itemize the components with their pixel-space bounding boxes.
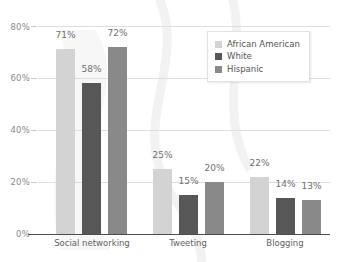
bar-value-label: 71% <box>48 30 83 40</box>
bar[interactable] <box>82 83 101 234</box>
x-tick-label: Blogging <box>249 238 321 248</box>
bar[interactable] <box>276 198 295 234</box>
legend-item-african-american[interactable]: African American <box>215 39 300 50</box>
bar-value-label: 22% <box>242 158 277 168</box>
bar[interactable] <box>179 195 198 234</box>
legend-label: White <box>227 51 252 62</box>
x-tick-label: Tweeting <box>152 238 224 248</box>
bar[interactable] <box>56 49 75 234</box>
y-tick-mark <box>31 130 37 131</box>
bar-value-label: 13% <box>294 181 329 191</box>
x-axis-baseline <box>28 234 330 235</box>
x-tick-label: Social networking <box>46 238 138 248</box>
y-tick-label: 0% <box>0 229 30 239</box>
y-tick-mark <box>31 182 37 183</box>
legend-swatch-icon <box>215 53 222 60</box>
legend-swatch-icon <box>215 41 222 48</box>
bar[interactable] <box>108 47 127 234</box>
legend-item-white[interactable]: White <box>215 51 300 62</box>
gridline-80 <box>38 26 330 27</box>
bar-value-label: 15% <box>171 176 206 186</box>
bar-value-label: 20% <box>197 163 232 173</box>
bar[interactable] <box>205 182 224 234</box>
y-tick-label: 60% <box>0 73 30 83</box>
legend-swatch-icon <box>215 66 222 73</box>
bar[interactable] <box>302 200 321 234</box>
legend-item-hispanic[interactable]: Hispanic <box>215 64 300 75</box>
bar[interactable] <box>153 169 172 234</box>
y-tick-mark <box>31 78 37 79</box>
bar-chart: 80% 60% 40% 20% 0% 71% 58% 72% Social ne… <box>0 0 341 262</box>
bar-value-label: 58% <box>74 64 109 74</box>
y-tick-label: 20% <box>0 177 30 187</box>
bar-value-label: 72% <box>100 28 135 38</box>
bar-value-label: 25% <box>145 150 180 160</box>
y-tick-label: 80% <box>0 22 30 32</box>
y-tick-label: 40% <box>0 125 30 135</box>
legend: African American White Hispanic <box>207 31 310 82</box>
bar[interactable] <box>250 177 269 234</box>
legend-label: African American <box>227 39 300 50</box>
legend-label: Hispanic <box>227 64 263 75</box>
y-tick-mark <box>31 26 37 27</box>
